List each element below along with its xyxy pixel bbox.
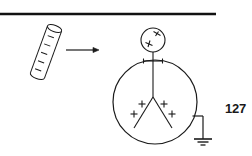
charged-rod-tick: [48, 36, 54, 38]
page-number: 127: [225, 101, 246, 116]
charged-rod-tick: [44, 44, 50, 46]
charged-rod-tick: [38, 61, 44, 63]
electroscope-case: [113, 60, 197, 144]
figure-page: 127: [0, 0, 252, 156]
electroscope-figure: [0, 0, 252, 156]
leaf-charge-plus: [139, 101, 146, 108]
charged-rod-top-ellipse: [46, 23, 62, 34]
motion-arrow: [66, 47, 99, 52]
electroscope: [113, 28, 212, 145]
leaf-charge-plus: [161, 101, 168, 108]
leaf-charge-plus: [169, 111, 176, 118]
motion-arrow-head: [93, 47, 99, 52]
charged-rod: [29, 23, 62, 81]
charged-rod-side-left: [30, 26, 47, 73]
electroscope-leaf-left: [134, 97, 153, 128]
charged-rod-tick: [35, 69, 41, 71]
charged-rod-tick: [41, 52, 47, 54]
leaf-charge-plus: [131, 111, 138, 118]
electroscope-leaf-right: [153, 97, 172, 128]
electroscope-knob: [141, 28, 165, 52]
charged-rod-bottom-cap: [29, 73, 44, 81]
